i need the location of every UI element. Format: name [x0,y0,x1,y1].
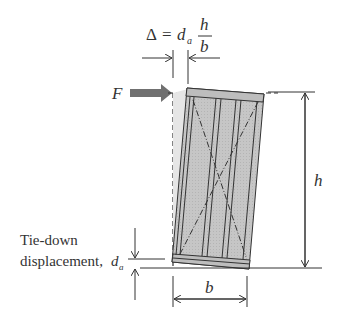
formula-var: d [177,25,186,44]
width-label: b [205,278,214,297]
formula-denominator: b [200,37,209,56]
tie-down-label-line2: displacement, [20,253,103,269]
tie-down-dimension [128,228,165,300]
tie-down-label-line1: Tie-down [20,232,78,248]
tie-down-var: d [111,253,119,269]
formula-eq: = [162,25,172,44]
formula-sub: a [187,35,192,46]
delta-formula: Δ = d a h b [146,15,212,56]
force-label: F [111,84,123,103]
wall-panel [172,88,264,269]
formula-lhs: Δ [146,25,157,44]
formula-numerator: h [200,15,209,34]
height-dimension [268,92,315,267]
height-label: h [314,171,323,190]
tie-down-sub: a [119,262,124,272]
wall-racking-diagram: Δ = d a h b F [0,0,339,322]
force-arrow-icon [130,84,172,102]
